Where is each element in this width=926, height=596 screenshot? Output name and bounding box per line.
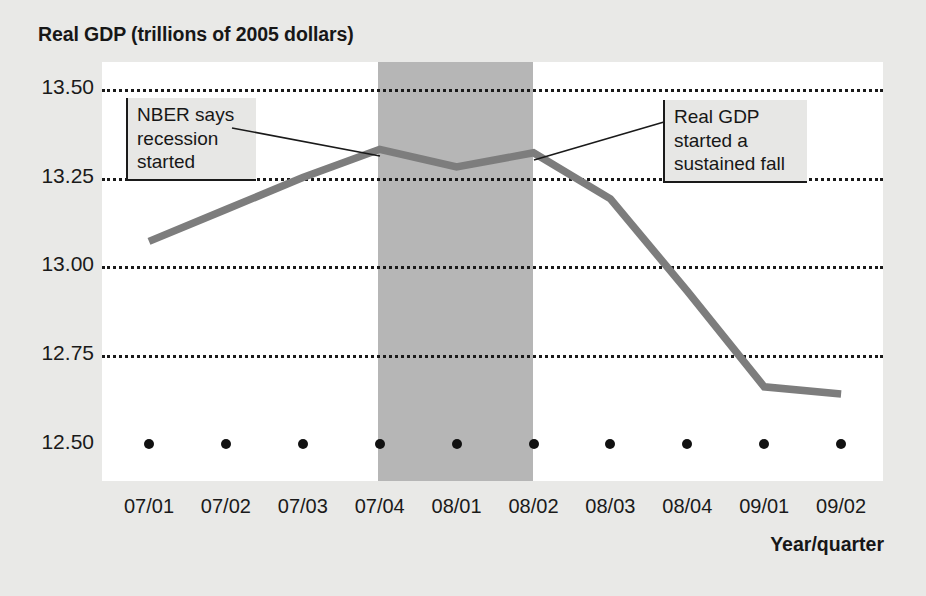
x-tick-dot-08-04: [682, 439, 692, 449]
x-tick-dot-08-02: [529, 439, 539, 449]
x-tick-label-08-02: 08/02: [491, 495, 577, 518]
x-tick-label-08-04: 08/04: [644, 495, 730, 518]
x-tick-dot-07-01: [144, 439, 154, 449]
x-tick-label-09-01: 09/01: [721, 495, 807, 518]
x-tick-label-08-01: 08/01: [414, 495, 500, 518]
x-tick-dot-09-01: [759, 439, 769, 449]
x-tick-dot-07-03: [298, 439, 308, 449]
x-tick-label-09-02: 09/02: [798, 495, 884, 518]
annotation-real-gdp-sustained-fall: Real GDP started a sustained fall: [663, 100, 807, 183]
x-tick-dot-07-02: [221, 439, 231, 449]
x-axis-title: Year/quarter: [770, 533, 884, 556]
annotation-nber-recession-started: NBER says recession started: [126, 98, 256, 181]
x-tick-label-08-03: 08/03: [567, 495, 653, 518]
x-tick-dot-08-01: [452, 439, 462, 449]
y-tick-label-12-50: 12.50: [2, 430, 94, 454]
y-tick-label-13-50: 13.50: [2, 75, 94, 99]
y-tick-label-12-75: 12.75: [2, 341, 94, 365]
x-tick-label-07-03: 07/03: [260, 495, 346, 518]
y-tick-label-13-25: 13.25: [2, 164, 94, 188]
y-axis-tick-labels: 13.5013.2513.0012.7512.50: [0, 0, 94, 596]
x-tick-label-07-04: 07/04: [337, 495, 423, 518]
y-tick-label-13-00: 13.00: [2, 252, 94, 276]
chart-figure: Real GDP (trillions of 2005 dollars) 13.…: [0, 0, 926, 596]
x-tick-dot-09-02: [836, 439, 846, 449]
x-tick-dot-07-04: [375, 439, 385, 449]
x-tick-label-07-01: 07/01: [106, 495, 192, 518]
x-tick-label-07-02: 07/02: [183, 495, 269, 518]
x-tick-dot-08-03: [605, 439, 615, 449]
